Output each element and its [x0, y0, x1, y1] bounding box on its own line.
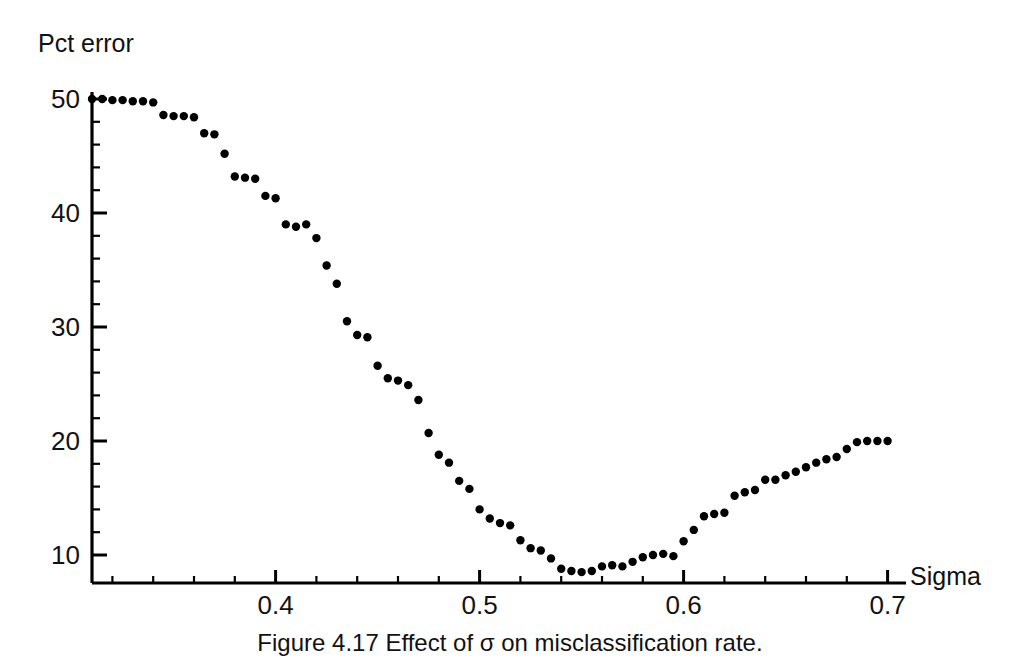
- data-point: [139, 97, 147, 105]
- data-point: [180, 112, 188, 120]
- data-point: [220, 150, 228, 158]
- data-point: [792, 468, 800, 476]
- data-point: [812, 458, 820, 466]
- data-point: [516, 536, 524, 544]
- x-axis-tick-label: 0.6: [666, 590, 702, 620]
- data-point: [98, 95, 106, 103]
- data-point: [333, 279, 341, 287]
- data-point: [526, 544, 534, 552]
- data-point: [394, 376, 402, 384]
- x-axis-title: Sigma: [910, 561, 981, 591]
- data-point: [690, 526, 698, 534]
- y-axis-tick-label: 10: [51, 540, 80, 570]
- data-point: [843, 445, 851, 453]
- data-point: [598, 562, 606, 570]
- data-point: [343, 317, 351, 325]
- data-point: [537, 546, 545, 554]
- data-point: [455, 477, 463, 485]
- data-point: [108, 96, 116, 104]
- data-point: [322, 261, 330, 269]
- data-point: [251, 175, 259, 183]
- data-point: [384, 374, 392, 382]
- data-point: [231, 172, 239, 180]
- data-point: [832, 453, 840, 461]
- data-point: [649, 551, 657, 559]
- data-point: [88, 95, 96, 103]
- data-point: [710, 510, 718, 518]
- data-point: [475, 505, 483, 513]
- data-point: [557, 564, 565, 572]
- data-point: [363, 333, 371, 341]
- data-point: [353, 331, 361, 339]
- data-point: [771, 476, 779, 484]
- data-point: [118, 96, 126, 104]
- data-point: [190, 113, 198, 121]
- data-point: [129, 97, 137, 105]
- data-point: [628, 558, 636, 566]
- data-point: [639, 553, 647, 561]
- data-point: [435, 450, 443, 458]
- data-point: [608, 561, 616, 569]
- data-point: [720, 509, 728, 517]
- data-point: [159, 111, 167, 119]
- data-point: [149, 98, 157, 106]
- data-point: [547, 554, 555, 562]
- data-point: [679, 537, 687, 545]
- data-point: [588, 567, 596, 575]
- data-point: [822, 455, 830, 463]
- data-point: [669, 552, 677, 560]
- figure-container: Pct error 0.40.50.60.71020304050 Sigma F…: [0, 0, 1020, 672]
- y-axis-tick-label: 40: [51, 198, 80, 228]
- data-point: [730, 492, 738, 500]
- data-point: [853, 438, 861, 446]
- figure-caption: Figure 4.17 Effect of σ on misclassifica…: [0, 628, 1020, 658]
- data-point: [424, 429, 432, 437]
- data-point: [863, 437, 871, 445]
- data-point: [761, 476, 769, 484]
- data-point: [271, 194, 279, 202]
- data-point: [700, 512, 708, 520]
- data-point: [302, 220, 310, 228]
- data-point: [883, 437, 891, 445]
- data-point: [659, 550, 667, 558]
- data-point: [496, 519, 504, 527]
- data-point: [751, 486, 759, 494]
- data-point: [741, 488, 749, 496]
- data-point: [465, 485, 473, 493]
- data-point: [210, 130, 218, 138]
- y-axis-tick-label: 30: [51, 312, 80, 342]
- data-point: [506, 521, 514, 529]
- data-point: [486, 514, 494, 522]
- scatter-plot: 0.40.50.60.71020304050: [0, 0, 1020, 672]
- x-axis-tick-label: 0.5: [462, 590, 498, 620]
- data-point: [577, 568, 585, 576]
- data-point: [404, 381, 412, 389]
- data-point: [169, 112, 177, 120]
- data-point: [445, 458, 453, 466]
- data-point: [567, 567, 575, 575]
- data-point: [618, 562, 626, 570]
- data-point: [802, 463, 810, 471]
- data-point: [414, 396, 422, 404]
- y-axis-tick-label: 20: [51, 426, 80, 456]
- data-point: [781, 471, 789, 479]
- data-point: [261, 192, 269, 200]
- data-point: [241, 173, 249, 181]
- y-axis-tick-label: 50: [51, 84, 80, 114]
- x-axis-tick-label: 0.4: [258, 590, 294, 620]
- data-point: [873, 437, 881, 445]
- data-point: [292, 222, 300, 230]
- data-point: [200, 129, 208, 137]
- data-point: [282, 220, 290, 228]
- data-point: [312, 234, 320, 242]
- x-axis-tick-label: 0.7: [870, 590, 906, 620]
- data-point: [373, 362, 381, 370]
